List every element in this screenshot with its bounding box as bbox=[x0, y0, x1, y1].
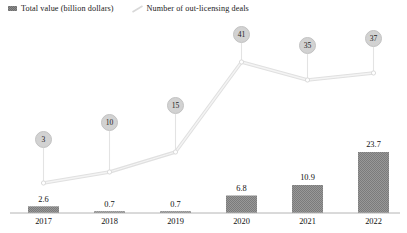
point-badge-2021[interactable]: 35 bbox=[299, 37, 316, 54]
bar-2017[interactable] bbox=[28, 206, 59, 213]
hatched-square-icon bbox=[8, 6, 17, 11]
bar-value-2021: 10.9 bbox=[300, 173, 315, 182]
bar-value-2018: 0.7 bbox=[104, 200, 114, 209]
legend-item-deals[interactable]: Number of out-licensing deals bbox=[132, 4, 249, 13]
marker-stems bbox=[44, 43, 374, 183]
diagonal-line-icon bbox=[132, 5, 143, 13]
legend-label-total-value: Total value (billion dollars) bbox=[21, 4, 114, 13]
point-badge-2019[interactable]: 15 bbox=[167, 97, 184, 114]
x-tick-2017: 2017 bbox=[35, 217, 52, 226]
vertex-2017 bbox=[41, 181, 45, 185]
chart-root: Total value (billion dollars) Number of … bbox=[0, 0, 407, 233]
bar-value-2022: 23.7 bbox=[366, 140, 381, 149]
bar-2020[interactable] bbox=[226, 196, 257, 214]
bar-value-2019: 0.7 bbox=[170, 200, 180, 209]
vertex-2022 bbox=[371, 71, 375, 75]
point-badge-2018[interactable]: 10 bbox=[101, 114, 118, 131]
vertex-2019 bbox=[173, 150, 177, 154]
point-badge-2022[interactable]: 37 bbox=[365, 30, 382, 47]
bar-value-2017: 2.6 bbox=[38, 195, 48, 204]
legend-label-deals: Number of out-licensing deals bbox=[147, 4, 249, 13]
x-tick-2021: 2021 bbox=[299, 217, 316, 226]
x-tick-2022: 2022 bbox=[365, 217, 382, 226]
chart-legend: Total value (billion dollars) Number of … bbox=[8, 4, 249, 13]
bar-series bbox=[28, 152, 389, 213]
x-tick-2020: 2020 bbox=[233, 217, 250, 226]
deals-line-highlight bbox=[44, 62, 374, 183]
legend-item-total-value[interactable]: Total value (billion dollars) bbox=[8, 4, 114, 13]
x-tick-2019: 2019 bbox=[167, 217, 184, 226]
vertex-2020 bbox=[239, 60, 243, 64]
point-badge-2020[interactable]: 41 bbox=[233, 26, 250, 43]
line-series bbox=[44, 62, 374, 183]
vertex-2021 bbox=[305, 78, 309, 82]
bar-2021[interactable] bbox=[292, 185, 323, 213]
point-badge-2017[interactable]: 3 bbox=[35, 131, 52, 148]
deals-line[interactable] bbox=[44, 62, 374, 183]
bar-2022[interactable] bbox=[358, 152, 389, 213]
plot-area: 2.6 0.7 0.7 6.8 10.9 23.7 3 10 15 41 35 … bbox=[0, 18, 407, 233]
bar-value-2020: 6.8 bbox=[236, 184, 246, 193]
chart-canvas bbox=[0, 18, 407, 233]
vertex-2018 bbox=[107, 170, 111, 174]
x-tick-2018: 2018 bbox=[101, 217, 118, 226]
